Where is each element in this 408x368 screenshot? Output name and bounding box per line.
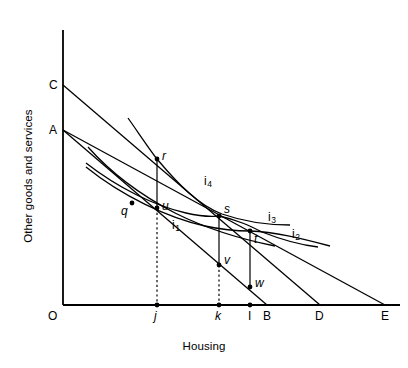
- curve-label-i2-subscript: 2: [295, 232, 300, 242]
- label-j: j: [154, 310, 157, 322]
- point-marker-t: [248, 229, 253, 234]
- curve-label-i1-subscript: 1: [175, 223, 180, 233]
- curve-label-i2: i2: [292, 228, 299, 240]
- label-s: s: [224, 203, 230, 215]
- economics-diagram: Other goods and services Housing C A O j…: [0, 0, 408, 368]
- point-marker-s: [217, 214, 222, 219]
- label-c: C: [49, 79, 58, 91]
- label-i-tick: I: [248, 310, 251, 322]
- label-k: k: [215, 310, 221, 322]
- point-marker-r: [155, 157, 160, 162]
- label-origin: O: [48, 310, 57, 322]
- label-u: u: [162, 200, 169, 212]
- point-marker-v: [217, 263, 222, 268]
- y-axis-title: Other goods and services: [22, 96, 34, 256]
- label-e: E: [381, 310, 389, 322]
- label-b: B: [263, 310, 271, 322]
- curve-label-i3-subscript: 3: [271, 215, 276, 225]
- tick-marker-j: [155, 303, 160, 308]
- label-w: w: [255, 277, 264, 289]
- label-a: A: [49, 124, 57, 136]
- label-v: v: [224, 254, 230, 266]
- curve-label-i1: i1: [172, 219, 179, 231]
- label-q: q: [121, 205, 128, 217]
- label-r: r: [162, 150, 166, 162]
- x-axis-title: Housing: [0, 340, 408, 352]
- tick-marker-k: [217, 303, 222, 308]
- curve-label-i4: i4: [204, 175, 211, 187]
- point-marker-u: [155, 206, 160, 211]
- point-marker-q: [130, 201, 135, 206]
- tick-marker-i: [248, 303, 253, 308]
- curve-label-i4-subscript: 4: [207, 179, 212, 189]
- label-t: t: [254, 233, 257, 245]
- curve-label-i3: i3: [268, 211, 275, 223]
- point-marker-w: [248, 285, 253, 290]
- label-d: D: [315, 310, 324, 322]
